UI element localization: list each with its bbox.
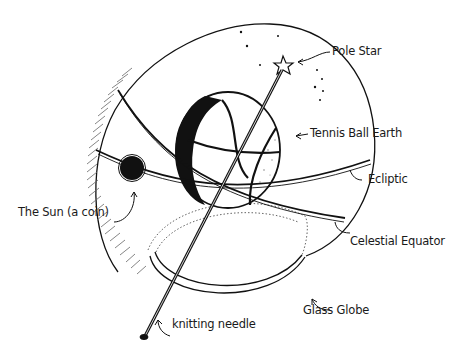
sun-coin <box>119 155 146 182</box>
label-pole-star: Pole Star <box>332 46 381 58</box>
globe-stand <box>150 252 305 293</box>
pole-star-icon <box>274 56 293 74</box>
globe-base-rim <box>148 203 307 255</box>
label-ecliptic: Ecliptic <box>368 174 408 186</box>
label-knitting-needle: knitting needle <box>172 319 256 331</box>
label-glass-globe: Glass Globe <box>303 305 369 317</box>
label-the-sun: The Sun (a coin) <box>18 207 109 219</box>
label-tennis-ball-earth: Tennis Ball Earth <box>310 128 402 140</box>
label-celestial-equator: Celestial Equator <box>350 236 445 248</box>
